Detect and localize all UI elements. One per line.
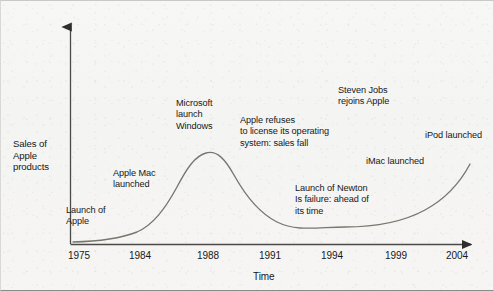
annotation-ipod-launched: iPod launched (425, 130, 482, 141)
annotation-steven-jobs-rejoins: Steven Jobs rejoins Apple (338, 85, 389, 108)
x-tick-1999: 1999 (385, 250, 407, 261)
x-tick-1975: 1975 (68, 250, 90, 261)
annotation-launch-of-apple: Launch of Apple (66, 205, 105, 228)
x-tick-1984: 1984 (129, 250, 151, 261)
x-axis-title: Time (253, 271, 274, 282)
annotation-apple-mac-launched: Apple Mac launched (113, 168, 156, 191)
annotation-apple-refuses-license: Apple refuses to license its operating s… (240, 115, 329, 149)
x-tick-1991: 1991 (259, 250, 281, 261)
annotation-launch-of-newton: Launch of Newton Is failure: ahead of it… (295, 183, 369, 217)
apple-sales-timeline-figure: Sales of Apple products Time 1975 1984 1… (0, 0, 494, 291)
y-axis-title: Sales of Apple products (13, 138, 69, 173)
x-tick-1994: 1994 (321, 250, 343, 261)
x-tick-2004: 2004 (446, 250, 468, 261)
x-tick-1988: 1988 (197, 250, 219, 261)
annotation-microsoft-launch-windows: Microsoft launch Windows (176, 98, 213, 132)
annotation-imac-launched: iMac launched (366, 156, 424, 167)
